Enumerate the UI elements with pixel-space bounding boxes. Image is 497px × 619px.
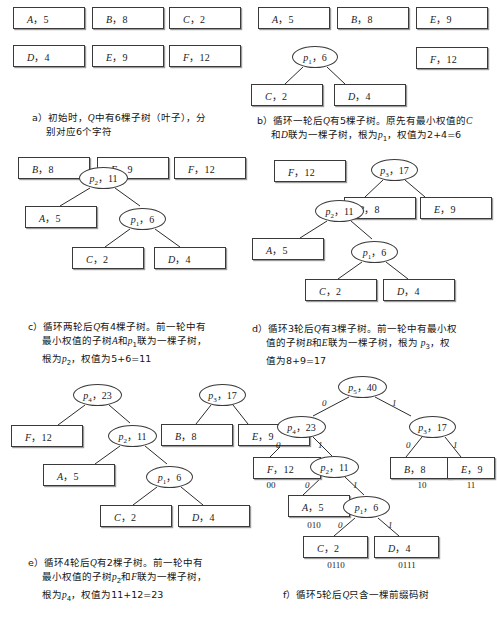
leaf-node[interactable]: C，2 [251,84,323,106]
leaf-node[interactable]: A，5 [13,7,85,29]
caption-line: f）循环5轮后Q只含一棵前缀码树 [283,588,493,602]
leaf-node[interactable]: F，12 [174,157,246,179]
leaf-label: F，12 [254,461,294,476]
caption-line: e）循环4轮后Q有2棵子树。前一轮中有 [28,556,246,570]
caption-line: 根为p2，权值为5+6=11 [28,352,246,370]
internal-node[interactable]: p1，6 [343,496,390,518]
leaf-node[interactable]: D，4 [178,505,250,527]
internal-node[interactable]: p1，6 [119,208,166,230]
leaf-node[interactable]: A，5 [43,464,115,486]
leaf-label: F，12 [12,429,52,444]
leaf-label: F，12 [175,161,215,176]
caption-line: 别对应6个字符 [32,125,247,138]
leaf-label: E，9 [448,461,483,476]
edge-bit-label: 1 [353,481,358,490]
huffman-construction-figure: A，5 B，8 C，2 D，4 E，9 F，12 a）初始时，Q中有6棵子树（叶… [0,0,497,619]
leaf-label: E，9 [239,428,274,443]
caption-line: 值为8+9=17 [252,354,496,367]
internal-node-label: p3，17 [418,419,447,436]
leaf-label: A，5 [253,242,288,257]
internal-node[interactable]: p3，17 [409,416,456,438]
internal-node[interactable]: p2，11 [315,200,364,222]
leaf-node[interactable]: E，9 [92,45,164,67]
internal-node-label: p2，11 [89,170,117,187]
leaf-label: D，4 [335,88,371,103]
leaf-node[interactable]: A，5 [258,7,330,29]
panel-caption: c）循环两轮后Q有4棵子树。前一轮中有 最小权值的子树A和p1联为一棵子树， 根… [28,320,246,370]
leaf-node[interactable]: C，2 [169,7,241,29]
leaf-label: B，8 [338,11,373,26]
leaf-node[interactable]: D，4 [374,536,439,558]
leaf-label: C，2 [304,540,339,555]
leaf-label: F，12 [170,49,210,64]
panel-caption: f）循环5轮后Q只含一棵前缀码树 [283,588,493,602]
leaf-label: B，8 [19,161,54,176]
leaf-label: B，8 [162,428,197,443]
internal-node[interactable]: p1，6 [351,241,398,263]
leaf-node[interactable]: C，2 [100,505,172,527]
leaf-node[interactable]: A，5 [252,238,324,260]
internal-node[interactable]: p2，11 [79,167,128,189]
leaf-node[interactable]: C，2 [305,279,377,301]
leaf-label: D，4 [155,251,191,266]
internal-node[interactable]: p5，40 [338,376,387,398]
caption-line: b）循环一轮后Q有5棵子树。原先有最小权值的C [257,114,497,128]
leaf-node[interactable]: E，9 [420,197,492,219]
leaf-node[interactable]: E，9 [416,7,488,29]
leaf-node[interactable]: B，8 [161,424,233,446]
edge-bit-label: 1 [318,441,323,450]
leaf-node[interactable]: F，12 [416,47,488,69]
caption-line: c）循环两轮后Q有4棵子树。前一轮中有 [28,320,246,334]
internal-node[interactable]: p2，11 [108,425,157,447]
caption-line: 根为p4，权值为11+12=23 [28,588,246,606]
caption-line: 和D联为一棵子树，根为p1，权值为2+4=6 [257,128,497,146]
prefix-code: 11 [453,481,489,490]
prefix-code: 0110 [316,561,356,570]
leaf-node[interactable]: D，4 [334,84,406,106]
internal-node-label: p3，17 [208,387,237,404]
leaf-label: F，12 [417,51,457,66]
leaf-label: D，4 [179,509,215,524]
leaf-node[interactable]: C，2 [72,247,144,269]
leaf-label: B，8 [93,11,128,26]
leaf-node[interactable]: E，9 [447,457,495,479]
edge-bit-label: 0 [276,441,281,450]
internal-node[interactable]: p2，11 [310,456,359,478]
internal-node[interactable]: p1，6 [146,466,193,488]
leaf-node[interactable]: B，8 [390,457,452,479]
internal-node[interactable]: p4，23 [277,416,326,438]
internal-node[interactable]: p3，17 [199,384,246,406]
leaf-label: A，5 [259,11,294,26]
caption-line: 值的子树B和E联为一棵子树，根为 p3，权 [252,336,496,354]
leaf-label: E，9 [417,11,452,26]
prefix-code: 00 [253,481,289,490]
leaf-node[interactable]: D，4 [154,247,226,269]
internal-node-label: p1，6 [363,244,387,261]
leaf-label: D，4 [14,49,50,64]
leaf-label: A，5 [289,499,324,514]
leaf-node[interactable]: A，5 [25,206,97,228]
leaf-node[interactable]: F，12 [11,425,83,447]
leaf-node[interactable]: F，12 [169,45,241,67]
internal-node[interactable]: p4，23 [73,384,122,406]
internal-node-label: p4，23 [83,387,112,404]
leaf-node[interactable]: F，12 [274,160,346,182]
leaf-label: D，4 [375,540,411,555]
leaf-label: A，5 [26,210,61,225]
caption-line: 最小权值的子树A和p1联为一棵子树， [28,334,246,352]
internal-node[interactable]: p3，17 [371,159,418,181]
internal-node-label: p5，40 [348,379,377,396]
caption-line: d）循环3轮后Q有3棵子树。前一轮中有最小权 [252,322,496,336]
leaf-node[interactable]: A，5 [288,495,350,517]
internal-node-label: p2，11 [320,459,348,476]
internal-node[interactable]: p1，6 [292,46,338,68]
leaf-node[interactable]: D，4 [13,45,85,67]
leaf-label: E，9 [93,49,128,64]
leaf-node[interactable]: C，2 [303,536,368,558]
leaf-node[interactable]: B，8 [92,7,164,29]
leaf-node[interactable]: B，8 [337,7,409,29]
leaf-node[interactable]: D，4 [383,279,455,301]
leaf-label: C，2 [101,509,136,524]
internal-node-label: p2，11 [325,203,353,220]
leaf-label: A，5 [14,11,49,26]
